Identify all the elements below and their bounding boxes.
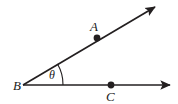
point-a-dot <box>94 35 101 42</box>
point-c-dot <box>108 82 115 89</box>
angle-arc <box>58 64 64 85</box>
point-b-label: B <box>13 79 21 92</box>
ray-ba <box>23 7 155 85</box>
angle-theta-label: θ <box>49 69 55 81</box>
point-a-label: A <box>90 20 98 33</box>
angle-diagram-figure: A B C θ <box>0 0 178 104</box>
diagram-canvas <box>0 0 178 104</box>
point-c-label: C <box>106 90 115 103</box>
